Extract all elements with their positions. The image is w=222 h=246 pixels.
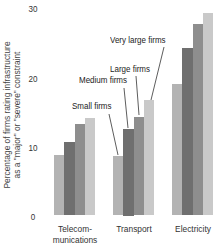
leader-line-large (136, 76, 139, 115)
leader-lines (0, 0, 222, 246)
bar-chart: Percentage of firms rating infrastructur… (0, 0, 222, 246)
leader-line-medium (124, 88, 128, 128)
leader-line-very-large (151, 47, 164, 100)
leader-line-small (109, 114, 118, 155)
